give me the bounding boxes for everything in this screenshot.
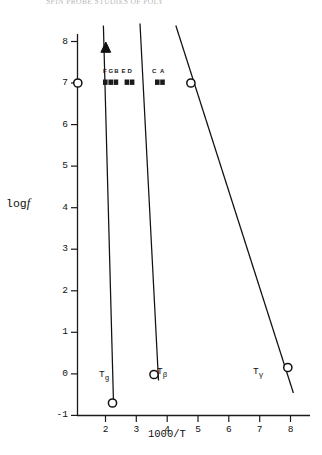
marker-B — [114, 80, 119, 85]
point-label-D: D — [128, 68, 132, 74]
point-label-A: A — [160, 68, 164, 74]
marker-D — [130, 80, 135, 85]
annotation-tb-sub: β — [163, 371, 168, 379]
x-tick-label-5: 5 — [191, 424, 205, 435]
point-label-B: B — [114, 68, 118, 74]
tb-relaxation-line — [140, 24, 159, 381]
y-tick-label-3: 3 — [52, 243, 68, 254]
y-tick-label-6: 6 — [52, 119, 68, 130]
marker-C — [155, 80, 160, 85]
point-label-E: E — [122, 68, 126, 74]
point-label-G: G — [109, 68, 114, 74]
y-tick-label-2: 2 — [52, 285, 68, 296]
x-tick-label-6: 6 — [222, 424, 236, 435]
y-tick-label-7: 7 — [52, 77, 68, 88]
y-tick-label-4: 4 — [52, 202, 68, 213]
marker-tg-bottom — [108, 399, 116, 407]
y-tick-label-0: 0 — [52, 368, 68, 379]
marker-triangle-filled — [101, 42, 111, 52]
annotation-tg-sub: g — [105, 374, 110, 382]
chart-figure: SPIN PROBE STUDIES OF POLY — [0, 0, 322, 455]
y-axis-title-log: log — [6, 197, 27, 210]
y-axis-title: logf — [6, 196, 30, 211]
marker-A — [160, 80, 165, 85]
marker-G — [108, 80, 113, 85]
data-markers-squares — [103, 80, 165, 85]
marker-ty-bottom — [284, 363, 292, 371]
annotation-tg: Tg — [99, 369, 109, 382]
marker-E — [125, 80, 130, 85]
x-axis-title: 1000/T — [148, 428, 186, 440]
annotation-ty: Tγ — [253, 366, 263, 379]
y-tick-label-1: 1 — [52, 326, 68, 337]
y-axis-title-f: f — [27, 196, 30, 210]
marker-tg-top — [74, 79, 82, 87]
annotation-ty-sub: γ — [259, 371, 264, 379]
y-tick-label-5: 5 — [52, 160, 68, 171]
x-tick-label-8: 8 — [284, 424, 298, 435]
marker-ty-top — [187, 79, 195, 87]
point-label-F: F — [103, 68, 107, 74]
y-tick-label-8: 8 — [52, 36, 68, 47]
x-tick-label-7: 7 — [253, 424, 267, 435]
annotation-tb: Tβ — [157, 366, 167, 379]
y-tick-label-neg1: -1 — [46, 409, 68, 420]
marker-F — [103, 80, 108, 85]
x-tick-label-2: 2 — [99, 424, 113, 435]
x-tick-label-3: 3 — [129, 424, 143, 435]
point-label-C: C — [152, 68, 156, 74]
